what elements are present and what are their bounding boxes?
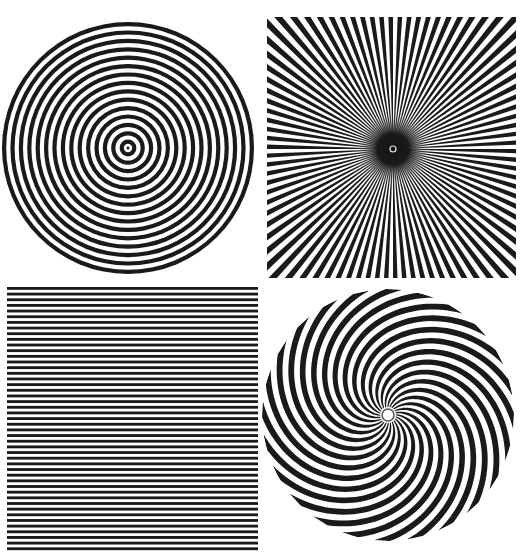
concentric-circles-canvas [0, 0, 523, 559]
concentric-circles-pattern [0, 0, 523, 559]
